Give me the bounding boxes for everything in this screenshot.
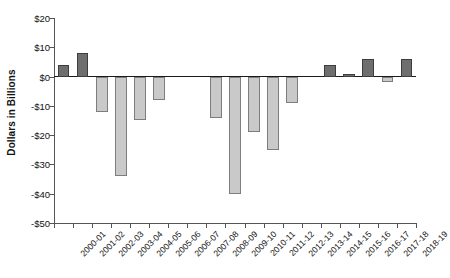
bar: [210, 77, 222, 118]
y-axis-tick-label: $0: [6, 71, 50, 82]
bar: [267, 77, 279, 150]
bar: [77, 53, 89, 76]
x-axis-tick-mark: [206, 223, 207, 228]
x-axis-tick-mark: [168, 223, 169, 228]
x-axis-tick-mark: [111, 223, 112, 228]
y-axis-tick-mark: [49, 164, 54, 165]
bar: [343, 74, 355, 77]
y-axis-tick-label: -$30: [6, 159, 50, 170]
y-axis-tick-mark: [49, 194, 54, 195]
x-axis-tick-mark: [149, 223, 150, 228]
bar: [382, 77, 394, 83]
x-axis-tick-mark: [187, 223, 188, 228]
x-axis-tick-mark: [359, 223, 360, 228]
x-axis-tick-mark: [378, 223, 379, 228]
x-axis-tick-mark: [321, 223, 322, 228]
bar: [96, 77, 108, 112]
bar: [115, 77, 127, 177]
y-axis-tick-label: -$50: [6, 218, 50, 229]
y-axis-tick-label: -$10: [6, 100, 50, 111]
y-axis-tick-mark: [49, 47, 54, 48]
x-axis-tick-mark: [54, 223, 55, 228]
x-axis-tick-mark: [283, 223, 284, 228]
y-axis-tick-label: -$40: [6, 188, 50, 199]
bar: [248, 77, 260, 133]
y-axis-tick-mark: [49, 77, 54, 78]
plot-area: [54, 18, 416, 223]
x-axis-tick-mark: [225, 223, 226, 228]
x-axis-tick-mark: [340, 223, 341, 228]
bar: [286, 77, 298, 103]
y-axis-tick-label: -$20: [6, 130, 50, 141]
y-axis-tick-labels: $20$10$0-$10-$20-$30-$40-$50: [0, 0, 50, 278]
y-axis-tick-mark: [49, 135, 54, 136]
x-axis-tick-mark: [92, 223, 93, 228]
x-axis-tick-mark: [245, 223, 246, 228]
x-axis-tick-mark: [397, 223, 398, 228]
x-axis-tick-mark: [73, 223, 74, 228]
y-axis-tick-label: $10: [6, 42, 50, 53]
bar: [229, 77, 241, 194]
y-axis-tick-mark: [49, 18, 54, 19]
bar: [401, 59, 413, 77]
x-axis-tick-mark: [130, 223, 131, 228]
y-axis-line: [54, 18, 55, 223]
bar: [134, 77, 146, 121]
bar: [153, 77, 165, 100]
x-axis-tick-labels: 2000-012001-022002-032003-042004-052005-…: [54, 229, 426, 278]
x-axis-tick-mark: [302, 223, 303, 228]
bar: [324, 65, 336, 77]
x-axis-tick-mark: [416, 223, 417, 228]
bar: [58, 65, 70, 77]
x-axis-tick-mark: [264, 223, 265, 228]
y-axis-tick-label: $20: [6, 13, 50, 24]
y-axis-tick-mark: [49, 106, 54, 107]
bar: [362, 59, 374, 77]
